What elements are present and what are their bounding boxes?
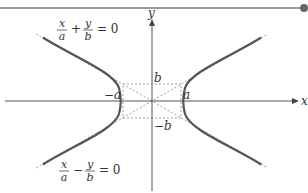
hyperbola-diagram: x y −a a b −b x a + y b = 0 x a − y b = … bbox=[0, 0, 308, 193]
eq-upper-eq: = 0 bbox=[97, 22, 119, 36]
eq-upper-op: + bbox=[71, 22, 81, 36]
x-axis-label: x bbox=[301, 94, 308, 108]
eq-lower-op: − bbox=[73, 163, 83, 177]
eq-lower-num1: x bbox=[61, 158, 68, 171]
x-axis-arrow-icon bbox=[292, 98, 299, 104]
y-axis-label: y bbox=[147, 6, 155, 20]
eq-lower-den2: b bbox=[86, 171, 93, 184]
eq-lower-eq: = 0 bbox=[99, 163, 121, 177]
box-label-bottom: −b bbox=[154, 119, 172, 133]
eq-upper-num1: x bbox=[59, 17, 66, 30]
y-axis-arrow-icon bbox=[149, 19, 155, 26]
eq-upper-den2: b bbox=[84, 30, 91, 43]
eq-upper-den1: a bbox=[59, 30, 66, 43]
eq-lower-num2: y bbox=[86, 158, 94, 171]
asymptote-equation-upper: x a + y b = 0 bbox=[57, 17, 119, 43]
top-rule-dot bbox=[300, 4, 308, 12]
asymptote-equation-lower: x a − y b = 0 bbox=[59, 158, 121, 184]
eq-lower-den1: a bbox=[61, 171, 68, 184]
eq-upper-num2: y bbox=[84, 17, 92, 30]
vertex-label-right: a bbox=[183, 88, 190, 102]
box-label-top: b bbox=[154, 71, 162, 85]
vertex-label-left: −a bbox=[104, 88, 121, 102]
